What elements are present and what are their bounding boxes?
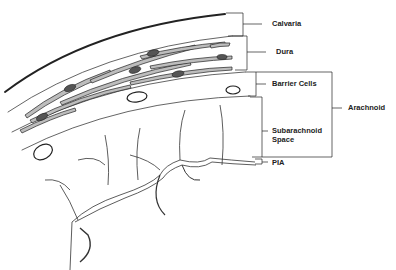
dura-cells: [20, 42, 232, 133]
trabeculae: [45, 105, 256, 270]
label-pia: PIA: [272, 158, 285, 167]
calvaria-bracket: [226, 13, 262, 36]
label-subarachnoid-line1: Subarachnoid: [272, 126, 322, 135]
meninges-illustration: [0, 0, 396, 270]
label-barrier-cells: Barrier Cells: [272, 79, 317, 88]
label-subarachnoid: Subarachnoid Space: [272, 126, 322, 144]
barrier-nuclei: [31, 86, 240, 163]
pia-bracket: [255, 159, 268, 164]
subarachnoid-bracket: [250, 97, 268, 157]
label-calvaria: Calvaria: [272, 19, 301, 28]
label-subarachnoid-line2: Space: [272, 135, 322, 144]
barrier-line-lower: [22, 96, 250, 150]
barrier-bracket: [245, 72, 266, 96]
label-dura: Dura: [276, 47, 293, 56]
dura-bracket: [232, 36, 266, 70]
calvaria-line: [5, 14, 225, 92]
label-arachnoid: Arachnoid: [348, 103, 385, 112]
